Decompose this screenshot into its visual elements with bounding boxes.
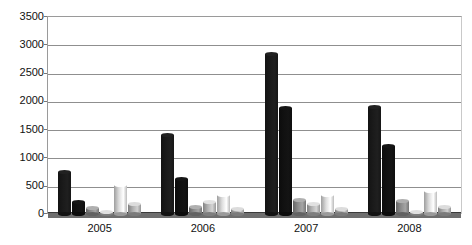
- bar: [279, 108, 292, 214]
- bar-group: [48, 16, 151, 214]
- bar: [128, 204, 141, 214]
- bar-cap: [114, 183, 127, 187]
- bar-body: [175, 179, 188, 214]
- y-tick-label: 2000: [2, 95, 44, 106]
- bar-cap: [321, 193, 334, 197]
- y-tick-label: 500: [2, 180, 44, 191]
- bar-cap: [410, 210, 423, 214]
- bar: [189, 207, 202, 214]
- bar-cap: [189, 205, 202, 209]
- bar: [86, 208, 99, 214]
- bar: [307, 204, 320, 214]
- bar-groups: [48, 16, 461, 214]
- bar: [203, 202, 216, 214]
- bar-body: [114, 185, 127, 214]
- bar-group: [151, 16, 254, 214]
- bar-base: [293, 212, 306, 216]
- bar: [161, 135, 174, 214]
- bar-base: [368, 212, 381, 216]
- bar-cap: [265, 52, 278, 56]
- bar-base: [321, 212, 334, 216]
- bar: [438, 207, 451, 214]
- bar: [321, 195, 334, 214]
- bar: [72, 202, 85, 214]
- x-axis-labels: 2005 2006 2007 2008: [48, 222, 461, 234]
- y-tick-label: 0: [2, 208, 44, 219]
- bar-base: [265, 212, 278, 216]
- bar-body: [368, 107, 381, 214]
- bar-base: [382, 212, 395, 216]
- bar-base: [279, 212, 292, 216]
- bar-base: [424, 212, 437, 216]
- bar-body: [265, 54, 278, 214]
- x-tick-label: 2005: [48, 222, 151, 234]
- bar-cap: [424, 189, 437, 193]
- x-tick-label: 2007: [255, 222, 358, 234]
- y-tick-label: 3000: [2, 39, 44, 50]
- bar: [100, 212, 113, 214]
- bar: [217, 195, 230, 214]
- bar: [175, 179, 188, 214]
- bar-chart: 3500 3000 2500 2000 1500 1000 500 0 2005…: [0, 0, 472, 245]
- y-tick-label: 1500: [2, 124, 44, 135]
- bar: [231, 209, 244, 214]
- bar-cap: [396, 199, 409, 203]
- bar: [114, 185, 127, 214]
- bar-body: [161, 135, 174, 214]
- bar: [293, 200, 306, 214]
- bar-cap: [100, 210, 113, 214]
- bar-base: [438, 212, 451, 216]
- bar: [335, 209, 348, 214]
- bar-body: [382, 146, 395, 214]
- bar: [396, 201, 409, 214]
- bar-base: [335, 212, 348, 216]
- bar-base: [307, 212, 320, 216]
- bar-body: [58, 172, 71, 214]
- y-tick-label: 2500: [2, 67, 44, 78]
- bar-group: [358, 16, 461, 214]
- y-axis: 3500 3000 2500 2000 1500 1000 500 0: [0, 16, 44, 214]
- bar-cap: [58, 170, 71, 174]
- bar: [368, 107, 381, 214]
- bar: [265, 54, 278, 214]
- bar-body: [424, 191, 437, 214]
- x-tick-label: 2008: [358, 222, 461, 234]
- bar-base: [396, 212, 409, 216]
- bar: [410, 212, 423, 214]
- bar-body: [279, 108, 292, 214]
- y-tick-label: 1000: [2, 152, 44, 163]
- y-tick-label: 3500: [2, 11, 44, 22]
- bar-cap: [293, 198, 306, 202]
- bar-group: [255, 16, 358, 214]
- bar: [58, 172, 71, 214]
- bar-cap: [86, 206, 99, 210]
- bar: [424, 191, 437, 214]
- bar: [382, 146, 395, 214]
- bar-cap: [161, 133, 174, 137]
- x-tick-label: 2006: [151, 222, 254, 234]
- bar-cap: [128, 202, 141, 206]
